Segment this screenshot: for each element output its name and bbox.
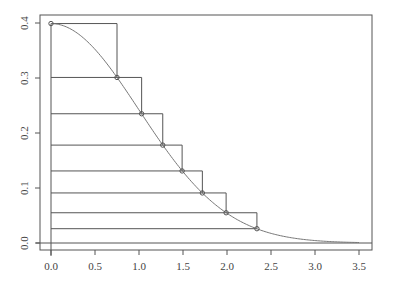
x-tick-label: 2.0 bbox=[220, 260, 234, 272]
x-tick-label: 2.5 bbox=[264, 260, 278, 272]
x-tick-label: 1.5 bbox=[176, 260, 190, 272]
x-tick-label: 0.0 bbox=[44, 260, 58, 272]
y-tick-label: 0.3 bbox=[18, 71, 30, 85]
axes: 0.00.51.01.52.02.53.03.50.00.10.20.30.4 bbox=[18, 15, 372, 272]
ziggurat-step bbox=[51, 77, 142, 113]
ziggurat-step bbox=[51, 24, 117, 78]
ziggurat-step bbox=[51, 114, 163, 145]
ziggurat-step bbox=[51, 193, 226, 213]
ziggurat-chart: 0.00.51.01.52.02.53.03.50.00.10.20.30.4 bbox=[0, 0, 394, 285]
y-tick-label: 0.1 bbox=[18, 181, 30, 195]
y-tick-label: 0.4 bbox=[18, 16, 30, 30]
density-curve bbox=[51, 24, 359, 243]
ziggurat-step bbox=[51, 145, 182, 171]
x-tick-label: 1.0 bbox=[132, 260, 146, 272]
x-tick-label: 3.5 bbox=[352, 260, 366, 272]
x-tick-label: 3.0 bbox=[308, 260, 322, 272]
y-tick-label: 0.0 bbox=[18, 236, 30, 250]
ziggurat-step bbox=[51, 171, 202, 193]
plot-frame bbox=[40, 15, 372, 250]
plot-area bbox=[36, 21, 372, 256]
y-tick-label: 0.2 bbox=[18, 126, 30, 140]
x-tick-label: 0.5 bbox=[88, 260, 102, 272]
